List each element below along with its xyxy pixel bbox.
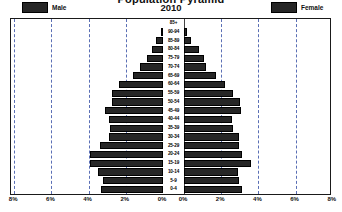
x-axis-tick-label: 8% [327,196,336,202]
bar-female [184,63,206,70]
pyramid-row: 0-4 [11,185,330,194]
age-group-label: 30-34 [163,133,184,142]
x-axis-tick-label: 8% [9,196,18,202]
legend-label-male: Male [52,4,66,11]
age-group-label: 40-44 [163,115,184,124]
pyramid-row: 10-14 [11,168,330,177]
pyramid-row: 15-19 [11,159,330,168]
x-axis-tick-label: 4% [83,196,92,202]
pyramid-row: 75-79 [11,54,330,63]
bar-male [101,186,163,193]
pyramid-row: 45-49 [11,107,330,116]
bar-male [140,63,163,70]
age-group-label: 85-89 [163,37,184,46]
age-group-label: 70-74 [163,63,184,72]
x-axis-tick-label: 6% [290,196,299,202]
chart-header: Population Pyramid 2010 Male Female [0,0,342,17]
pyramid-row: 30-34 [11,133,330,142]
bar-male [119,81,163,88]
x-axis-tick-label: 2% [120,196,129,202]
bar-female [184,160,251,167]
bar-male [112,90,163,97]
bar-male [112,98,163,105]
age-group-label: 20-24 [163,150,184,159]
bar-male [90,151,163,158]
bar-male [109,116,163,123]
bar-female [184,168,238,175]
bar-female [184,125,233,132]
bar-female [184,46,199,53]
bar-female [184,72,216,79]
bar-female [184,177,239,184]
age-group-label: 25-29 [163,142,184,151]
age-group-label: 35-39 [163,124,184,133]
age-group-label: 5-9 [163,177,184,186]
pyramid-row: 85-89 [11,37,330,46]
bar-female [184,116,232,123]
bar-male [152,46,163,53]
age-group-label: 0-4 [163,185,184,194]
x-axis-tick-label: 2% [216,196,225,202]
legend-item-female: Female [271,2,323,13]
legend-swatch-female-icon [271,2,297,13]
pyramid-rows: 85+90-9485-8980-8475-7970-7465-6960-6455… [11,19,330,194]
age-group-label: 55-59 [163,89,184,98]
bar-male [110,125,163,132]
bar-female [184,98,240,105]
age-group-label: 45-49 [163,107,184,116]
pyramid-row: 55-59 [11,89,330,98]
pyramid-row: 25-29 [11,142,330,151]
bar-female [184,28,187,35]
bar-female [184,186,242,193]
bar-female [184,107,241,114]
pyramid-row: 40-44 [11,115,330,124]
age-group-label: 60-64 [163,80,184,89]
legend-swatch-male-icon [22,2,48,13]
bar-female [184,55,204,62]
bar-male [147,55,163,62]
age-group-label: 85+ [163,19,184,28]
age-group-label: 15-19 [163,159,184,168]
bar-male [156,37,163,44]
age-group-label: 50-54 [163,98,184,107]
pyramid-row: 85+ [11,19,330,28]
age-group-label: 75-79 [163,54,184,63]
x-axis: 8%6%4%2%0%0%2%4%6%8% [0,196,342,212]
x-axis-tick-label: 6% [46,196,55,202]
bar-male [98,168,163,175]
bar-male [90,160,163,167]
bar-male [103,177,163,184]
pyramid-row: 90-94 [11,28,330,37]
x-axis-tick-label: 4% [253,196,262,202]
pyramid-row: 50-54 [11,98,330,107]
bar-female [184,37,191,44]
bar-female [184,81,225,88]
bar-male [133,72,163,79]
bar-female [184,151,242,158]
pyramid-row: 70-74 [11,63,330,72]
pyramid-row: 80-84 [11,45,330,54]
bar-male [105,107,163,114]
bar-female [184,133,239,140]
bar-female [184,90,233,97]
pyramid-row: 20-24 [11,150,330,159]
bar-male [109,133,163,140]
bar-male [100,142,163,149]
age-group-label: 80-84 [163,45,184,54]
age-group-label: 10-14 [163,168,184,177]
bar-female [184,142,239,149]
x-axis-tick-label: 0% [158,196,167,202]
age-group-label: 90-94 [163,28,184,37]
age-group-label: 65-69 [163,72,184,81]
pyramid-row: 60-64 [11,80,330,89]
plot-area: 85+90-9485-8980-8475-7970-7465-6960-6455… [10,18,331,195]
pyramid-row: 65-69 [11,72,330,81]
legend-label-female: Female [301,4,323,11]
pyramid-row: 35-39 [11,124,330,133]
pyramid-row: 5-9 [11,177,330,186]
x-axis-tick-label: 0% [179,196,188,202]
legend-item-male: Male [22,2,66,13]
